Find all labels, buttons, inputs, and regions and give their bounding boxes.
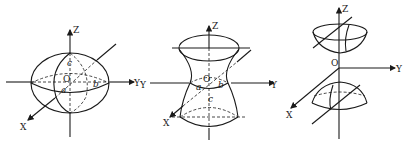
x-label: X xyxy=(20,122,27,132)
z-label: Z xyxy=(73,25,79,35)
x-label: X xyxy=(286,110,293,120)
lower-sheet-meridian xyxy=(330,85,333,110)
quadric-surfaces-diagram: Z Y X O c b a Z Y Y X O xyxy=(0,0,406,147)
y-label: Y xyxy=(395,64,403,74)
x-axis-back xyxy=(97,44,116,60)
hyperboloid-one-sheet-figure: Z Y Y X O a b c xyxy=(139,21,278,140)
x-label: X xyxy=(163,118,170,128)
y-label: Y xyxy=(270,80,278,90)
origin-label: O xyxy=(203,74,210,84)
c-label: c xyxy=(208,94,213,104)
z-label: Z xyxy=(212,21,218,31)
origin-label: O xyxy=(63,74,70,84)
upper-sheet-body xyxy=(313,32,367,53)
c-label: c xyxy=(67,58,72,68)
z-label: Z xyxy=(342,4,348,14)
a-label: a xyxy=(61,85,66,95)
meridian-back xyxy=(70,53,87,113)
hyperboloid-two-sheets-figure: Z Y X O xyxy=(286,4,403,139)
origin-label: O xyxy=(331,58,338,68)
ellipsoid-figure: Z Y X O c b a xyxy=(6,25,141,137)
upper-sheet-meridian xyxy=(345,25,349,51)
b-label: b xyxy=(218,80,224,90)
x-axis-back xyxy=(237,50,251,62)
a-label: a xyxy=(196,82,201,92)
b-label: b xyxy=(93,79,99,89)
y-neg-label: Y xyxy=(139,80,147,90)
